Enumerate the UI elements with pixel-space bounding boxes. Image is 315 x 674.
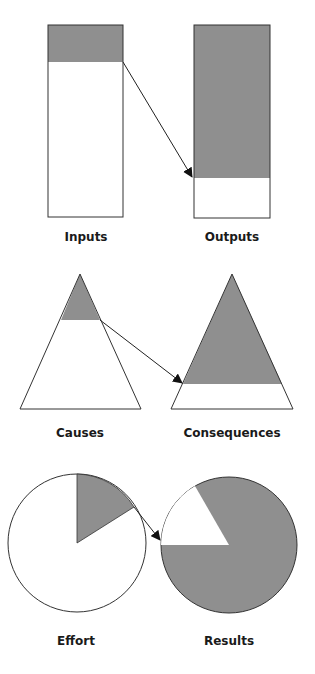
effort-pie <box>8 474 146 612</box>
label-results: Results <box>204 634 254 648</box>
consequences-triangle <box>171 274 293 409</box>
inputs-bar <box>48 25 123 217</box>
label-inputs: Inputs <box>64 230 107 244</box>
pareto-diagram <box>0 0 315 674</box>
results-pie <box>161 477 297 613</box>
causes-triangle <box>20 274 141 409</box>
arrow-causes-consequences <box>100 320 182 383</box>
label-outputs: Outputs <box>205 230 260 244</box>
arrow-inputs-outputs <box>123 62 192 177</box>
outputs-bar <box>194 25 270 218</box>
label-causes: Causes <box>56 426 104 440</box>
label-effort: Effort <box>57 634 95 648</box>
label-consequences: Consequences <box>183 426 280 440</box>
